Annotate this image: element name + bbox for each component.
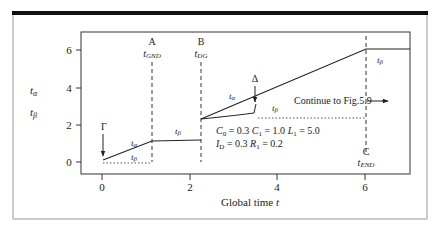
seg-beta-3: tβ — [377, 55, 384, 66]
params-line-1: C0 = 0.3 C1 = 1.0 L1 = 5.0 — [216, 125, 320, 138]
top-rule — [12, 11, 428, 15]
x-tick-2: 2 — [187, 181, 193, 193]
event-a-label: A — [148, 36, 156, 47]
y-tick-2: 2 — [66, 119, 72, 131]
x-tick-4: 4 — [274, 181, 280, 193]
y-tick-6: 6 — [66, 44, 72, 56]
event-c-time: tEND — [358, 157, 375, 169]
event-b-time: tDG — [195, 48, 208, 60]
seg-beta-2: tβ — [272, 103, 279, 114]
x-axis — [102, 174, 365, 180]
seg-alpha-1: tα — [131, 138, 138, 149]
seg-alpha-2: tα — [229, 91, 236, 102]
y-tick-4: 4 — [66, 82, 72, 94]
seg-beta-1: tβ — [131, 152, 138, 163]
x-tick-6: 6 — [362, 181, 368, 193]
params-line-2: ID = 0.3 R1 = 0.2 — [215, 138, 283, 151]
continue-label: Continue to Fig.5.9 — [294, 95, 372, 106]
series-beta-2 — [201, 104, 256, 119]
y-axis-label-beta: tβ — [30, 106, 37, 120]
y-axis — [76, 50, 81, 162]
y-tick-0: 0 — [66, 156, 72, 168]
gamma-label: Γ — [101, 121, 107, 132]
event-b-label: B — [198, 36, 205, 47]
delta-label: Δ — [252, 73, 259, 84]
seg-beta-1b: tβ — [175, 126, 182, 137]
event-a-time: tGND — [143, 48, 161, 60]
figure: 6 4 2 0 0 2 4 6 Global time t tα tβ A tG… — [0, 0, 438, 228]
event-c-label: C — [363, 146, 370, 157]
y-axis-label-alpha: tα — [30, 84, 38, 98]
x-axis-label: Global time t — [221, 196, 280, 208]
x-tick-0: 0 — [99, 181, 105, 193]
